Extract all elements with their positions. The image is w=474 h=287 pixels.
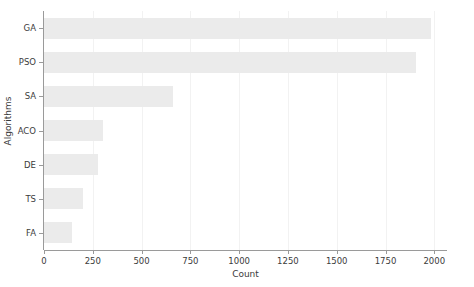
bar-aco [44, 120, 103, 141]
bar-pso [44, 52, 416, 73]
gridline-vertical [142, 11, 143, 250]
x-tick-label: 1000 [228, 256, 250, 266]
gridline-vertical [434, 11, 435, 250]
x-axis-tick [190, 250, 191, 254]
x-axis-title: Count [44, 269, 447, 279]
x-tick-label: 750 [182, 256, 198, 266]
gridline-vertical [337, 11, 338, 250]
x-axis-spine [44, 250, 447, 251]
x-tick-label: 500 [133, 256, 149, 266]
x-tick-label: 1750 [375, 256, 397, 266]
y-tick-label-de: DE [0, 160, 36, 170]
y-axis-tick [39, 199, 43, 200]
x-tick-label: 0 [41, 256, 46, 266]
y-tick-label-fa: FA [0, 228, 36, 238]
gridline-vertical [190, 11, 191, 250]
x-axis-tick [93, 250, 94, 254]
bar-ts [44, 188, 83, 209]
x-axis-tick [288, 250, 289, 254]
bar-sa [44, 86, 173, 107]
y-axis-tick [39, 165, 43, 166]
bar-ga [44, 18, 431, 39]
x-tick-label: 1500 [326, 256, 348, 266]
y-axis-tick [39, 233, 43, 234]
y-tick-label-ga: GA [0, 23, 36, 33]
x-axis-tick [239, 250, 240, 254]
y-axis-tick [39, 28, 43, 29]
gridline-vertical [288, 11, 289, 250]
y-axis-tick [39, 62, 43, 63]
bar-de [44, 154, 98, 175]
y-axis-title: Algorithms [3, 81, 13, 161]
bar-chart: 025050075010001250150017502000 GAPSOSAAC… [0, 0, 474, 287]
x-axis-tick [44, 250, 45, 254]
x-tick-label: 1250 [277, 256, 299, 266]
x-axis-tick [434, 250, 435, 254]
x-axis-tick [142, 250, 143, 254]
bar-fa [44, 222, 72, 243]
y-tick-label-ts: TS [0, 194, 36, 204]
y-tick-label-pso: PSO [0, 57, 36, 67]
gridline-vertical [386, 11, 387, 250]
x-axis-tick [337, 250, 338, 254]
gridline-vertical [239, 11, 240, 250]
x-tick-label: 250 [85, 256, 101, 266]
y-axis-tick [39, 96, 43, 97]
x-axis-tick [386, 250, 387, 254]
y-axis-tick [39, 131, 43, 132]
x-tick-label: 2000 [423, 256, 445, 266]
